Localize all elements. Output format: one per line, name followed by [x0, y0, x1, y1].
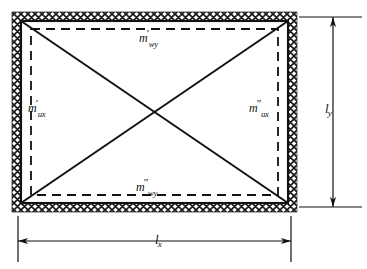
moment-label-right: m″ux: [249, 102, 270, 117]
moment-subscript: ux: [261, 109, 269, 119]
moment-subscript: ux: [38, 109, 46, 119]
moment-prime: ′: [36, 97, 38, 109]
dimension-subscript: x: [158, 239, 162, 249]
moment-prime: ″: [257, 97, 261, 109]
dimension-label-ly: ly: [325, 102, 333, 115]
moment-subscript: wy: [149, 39, 158, 49]
moment-prime: ″: [144, 176, 148, 188]
figure-canvas: [0, 0, 367, 269]
moment-subscript: wy: [148, 188, 157, 198]
yield-line-figure: m′wy m′ux m″ux m″wy ly lx: [0, 0, 367, 269]
dimension-label-lx: lx: [155, 233, 163, 246]
moment-prime: ′: [147, 27, 149, 39]
dimension-subscript: y: [328, 108, 332, 118]
moment-label-bottom: m″wy: [136, 181, 158, 196]
moment-label-top: m′wy: [139, 32, 159, 47]
moment-label-left: m′ux: [28, 102, 46, 117]
